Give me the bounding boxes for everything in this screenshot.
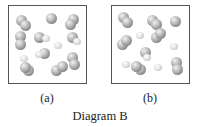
small-atom [42, 35, 50, 42]
panel-b-box [111, 5, 190, 84]
large-atom [122, 17, 133, 28]
panel-b-label: (b) [130, 91, 170, 106]
large-atom [57, 61, 68, 72]
large-atom [65, 19, 76, 30]
small-atom [54, 42, 62, 49]
panel-a-box [8, 5, 87, 84]
small-atom [73, 38, 81, 45]
small-atom [170, 43, 178, 50]
large-atom [69, 59, 80, 70]
large-atom [131, 61, 142, 72]
panel-a-label: (a) [27, 91, 67, 106]
large-atom [172, 64, 183, 75]
small-atom [143, 54, 151, 61]
diagram-caption: Diagram B [0, 109, 200, 124]
large-atom [155, 28, 166, 39]
large-atom [46, 13, 57, 24]
small-atom [136, 32, 144, 39]
small-atom [122, 61, 130, 68]
small-atom [35, 51, 43, 58]
small-atom [154, 64, 162, 71]
large-atom [121, 35, 132, 46]
small-atom [20, 55, 28, 62]
large-atom [20, 20, 31, 31]
large-atom [170, 16, 181, 27]
large-atom [20, 62, 31, 73]
large-atom [15, 39, 26, 50]
